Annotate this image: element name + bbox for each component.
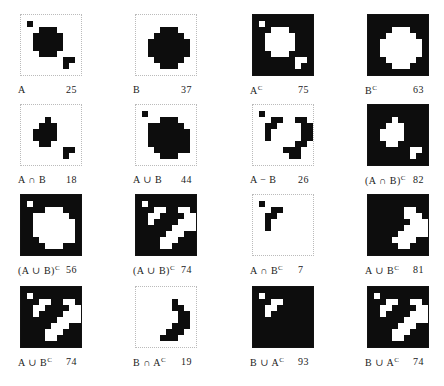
set-expression: B ∪ AC — [365, 357, 399, 368]
set-expression: A ∩ BC — [250, 265, 283, 276]
pixel — [422, 341, 428, 347]
pixel — [307, 341, 313, 347]
panel-caption: A ∪ B44 — [133, 174, 162, 185]
pixel — [422, 69, 428, 75]
set-expression: A ∪ B — [133, 174, 162, 185]
complement-superscript: C — [279, 356, 284, 364]
set-expression: A ∪ BC — [365, 265, 399, 276]
pixel — [190, 159, 196, 165]
complement-superscript: C — [401, 174, 406, 182]
panel-caption: (A ∪ B)C56 — [18, 264, 60, 276]
pixel-count: 56 — [66, 264, 77, 275]
binary-image-A — [20, 14, 82, 76]
binary-image-AorB — [135, 104, 197, 166]
set-expression: B ∩ AC — [133, 357, 166, 368]
set-expression: B ∪ AC — [250, 357, 284, 368]
set-expression: A — [18, 84, 26, 95]
pixel-count: 74 — [181, 264, 192, 275]
binary-image-Bc — [367, 14, 429, 76]
pixel-count: 44 — [181, 174, 192, 185]
pixel — [75, 159, 81, 165]
binary-image-BorAc2 — [367, 286, 429, 348]
panel-caption: A ∩ B18 — [18, 174, 46, 185]
pixel — [307, 69, 313, 75]
binary-image-notAorB — [20, 194, 82, 256]
panel-caption: A − B26 — [250, 174, 276, 185]
complement-superscript: C — [161, 356, 166, 364]
pixel-count: 75 — [298, 84, 309, 95]
binary-image-B — [135, 14, 197, 76]
complement-superscript: C — [170, 264, 175, 272]
binary-image-AandB — [20, 104, 82, 166]
binary-image-AorBc2 — [20, 286, 82, 348]
pixel — [307, 249, 313, 255]
set-expression: (A ∩ B)C — [365, 175, 406, 186]
pixel-count: 26 — [298, 174, 309, 185]
set-expression: A ∪ BC — [18, 357, 52, 368]
pixel — [307, 159, 313, 165]
complement-superscript: C — [372, 84, 377, 92]
set-expression: AC — [250, 85, 263, 96]
pixel — [190, 249, 196, 255]
pixel-count: 81 — [413, 264, 424, 275]
pixel — [422, 249, 428, 255]
pixel — [190, 69, 196, 75]
binary-image-notAandB — [367, 104, 429, 166]
binary-image-notAorB2 — [135, 194, 197, 256]
panel-caption: A25 — [18, 84, 26, 95]
pixel-count: 82 — [413, 174, 424, 185]
panel-caption: (A ∪ B)C74 — [133, 264, 175, 276]
panel-caption: A ∪ BC74 — [18, 356, 52, 368]
pixel-count: 74 — [66, 356, 77, 367]
complement-superscript: C — [278, 264, 283, 272]
pixel — [75, 249, 81, 255]
pixel-count: 93 — [298, 356, 309, 367]
binary-image-Ac — [252, 14, 314, 76]
set-expression: (A ∪ B)C — [18, 265, 60, 276]
panel-caption: B ∪ AC74 — [365, 356, 399, 368]
panel-caption: B ∩ AC19 — [133, 356, 166, 368]
pixel — [75, 69, 81, 75]
binary-image-AminusB — [252, 104, 314, 166]
complement-superscript: C — [394, 356, 399, 364]
panel-caption: B ∪ AC93 — [250, 356, 284, 368]
complement-superscript: C — [258, 84, 263, 92]
panel-caption: B37 — [133, 84, 140, 95]
panel-caption: A ∩ BC7 — [250, 264, 283, 276]
complement-superscript: C — [394, 264, 399, 272]
pixel — [190, 341, 196, 347]
complement-superscript: C — [47, 356, 52, 364]
pixel-count: 63 — [413, 84, 424, 95]
pixel-count: 18 — [66, 174, 77, 185]
set-expression: A ∩ B — [18, 174, 46, 185]
panel-caption: AC75 — [250, 84, 263, 96]
binary-image-AandBc — [252, 194, 314, 256]
set-expression: (A ∪ B)C — [133, 265, 175, 276]
pixel-count: 74 — [413, 356, 424, 367]
pixel-count: 19 — [181, 356, 192, 367]
complement-superscript: C — [55, 264, 60, 272]
panel-caption: BC63 — [365, 84, 377, 96]
binary-image-AorBc — [367, 194, 429, 256]
binary-image-BorAc — [252, 286, 314, 348]
set-expression: A − B — [250, 174, 276, 185]
pixel — [422, 159, 428, 165]
pixel-count: 37 — [181, 84, 192, 95]
set-expression: B — [133, 84, 140, 95]
pixel-count: 25 — [66, 84, 77, 95]
set-expression: BC — [365, 85, 377, 96]
panel-caption: (A ∩ B)C82 — [365, 174, 406, 186]
binary-image-BandAc — [135, 286, 197, 348]
pixel — [75, 341, 81, 347]
panel-caption: A ∪ BC81 — [365, 264, 399, 276]
pixel-count: 7 — [298, 264, 304, 275]
